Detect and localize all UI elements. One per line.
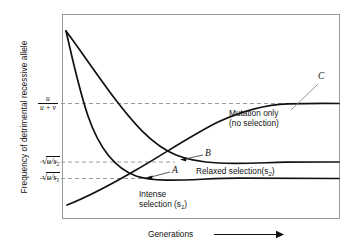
radicand-expression: u/s [47, 157, 57, 166]
curve-label-mutation-only: Mutation only (no selection) [229, 108, 279, 128]
point-label-b: B [205, 148, 211, 158]
intense-paren-open: (s [172, 199, 181, 209]
radicand-subscript: 1 [57, 177, 60, 183]
curve-intense-selection [66, 31, 339, 180]
radicand: u/s1 [46, 172, 60, 183]
curve-label-relaxed-selection: Relaxed selection(s2) [196, 166, 275, 178]
curve-label-intense-selection: Intense selection (s1) [139, 189, 187, 211]
leader-line-point-b [185, 155, 203, 159]
y-tick-intense-equilibrium: √u/s1 [20, 172, 60, 183]
fraction-numerator: u [38, 95, 58, 103]
mutation-only-line-2: (no selection) [229, 118, 279, 128]
leader-line-point-a [151, 172, 170, 177]
fraction-u-over-u-plus-v: u u + v [38, 95, 58, 111]
mutation-only-line-1: Mutation only [229, 108, 279, 118]
fraction-denominator: u + v [38, 103, 58, 112]
intense-selection-text: selection [139, 199, 172, 209]
sqrt-u-over-s2: √u/s2 [42, 156, 60, 167]
sqrt-u-over-s1: √u/s1 [42, 172, 60, 183]
relaxed-selection-text: Relaxed selection [196, 166, 262, 176]
radicand: u/s2 [46, 156, 60, 167]
curve-relaxed-selection [66, 31, 339, 163]
leader-line-point-c [291, 84, 318, 110]
radicand-subscript: 2 [57, 161, 60, 167]
radicand-expression: u/s [47, 173, 57, 182]
intense-line-2: selection (s1) [139, 199, 187, 211]
x-axis-arrow-head [276, 231, 284, 238]
relaxed-paren-close: ) [272, 166, 275, 176]
x-axis-title: Generations [148, 229, 193, 239]
point-label-a: A [172, 165, 178, 175]
figure-panel: Frequency of detrimental recessive allel… [0, 0, 361, 248]
y-tick-mutation-equilibrium: u u + v [24, 95, 58, 112]
intense-line-1: Intense [139, 189, 187, 199]
point-label-c: C [318, 71, 324, 81]
intense-paren-close: ) [184, 199, 187, 209]
y-tick-relaxed-equilibrium: √u/s2 [20, 156, 60, 167]
